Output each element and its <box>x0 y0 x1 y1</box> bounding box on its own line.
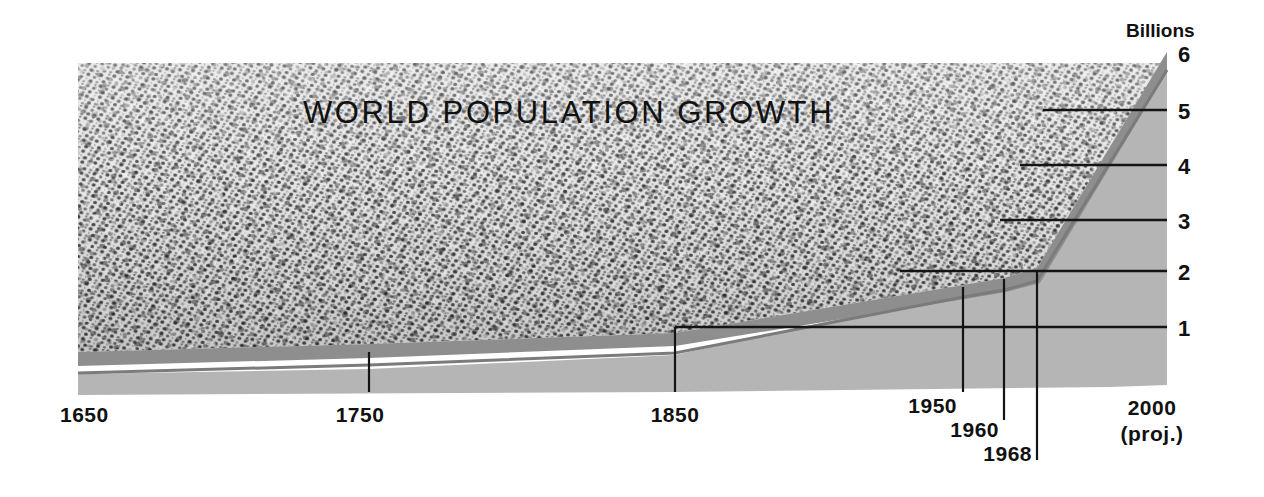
chart-canvas: WORLD POPULATION GROWTH Billions 6 5 4 3… <box>0 0 1264 497</box>
x-tick-label-1950: 1950 <box>908 394 957 417</box>
y-axis-unit-label: Billions <box>1126 20 1195 41</box>
x-tick-label-2000: 2000 <box>1128 396 1177 419</box>
x-tick-label-1750: 1750 <box>336 403 385 426</box>
y-tick-label-3: 3 <box>1178 209 1190 234</box>
y-tick-label-1: 1 <box>1178 316 1190 341</box>
y-tick-label-4: 4 <box>1178 154 1191 179</box>
x-tick-label-1650: 1650 <box>60 403 109 426</box>
y-tick-label-5: 5 <box>1178 99 1190 124</box>
y-tick-label-2: 2 <box>1178 260 1190 285</box>
y-tick-label-6: 6 <box>1178 42 1190 67</box>
x-tick-label-1968: 1968 <box>983 442 1032 465</box>
chart-title: WORLD POPULATION GROWTH <box>303 95 834 130</box>
x-tick-label-1960: 1960 <box>950 418 999 441</box>
x-tick-label-1850: 1850 <box>651 403 700 426</box>
world-population-growth-chart: WORLD POPULATION GROWTH Billions 6 5 4 3… <box>0 0 1264 497</box>
projection-note: (proj.) <box>1121 422 1184 445</box>
